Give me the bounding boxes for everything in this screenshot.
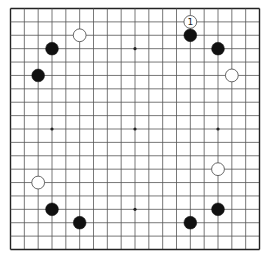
black-stone[interactable] — [212, 203, 225, 216]
go-board[interactable]: 1 — [0, 0, 262, 256]
black-stone[interactable] — [184, 216, 197, 229]
black-stone-circle — [212, 42, 225, 55]
white-stone[interactable] — [73, 29, 86, 42]
black-stone-circle — [212, 203, 225, 216]
black-stone[interactable] — [212, 42, 225, 55]
white-stone[interactable] — [32, 176, 45, 189]
white-stone[interactable] — [225, 69, 238, 82]
star-point — [133, 47, 136, 50]
black-stone-circle — [184, 29, 197, 42]
white-stone-circle — [32, 176, 45, 189]
black-stone[interactable] — [32, 69, 45, 82]
black-stone[interactable] — [184, 29, 197, 42]
black-stone-circle — [184, 216, 197, 229]
black-stone-circle — [46, 203, 59, 216]
black-stone[interactable] — [46, 203, 59, 216]
black-stone[interactable] — [73, 216, 86, 229]
white-stone[interactable] — [212, 163, 225, 176]
star-point — [50, 127, 53, 130]
white-stone[interactable]: 1 — [184, 15, 197, 28]
move-number-label: 1 — [187, 17, 193, 27]
white-stone-circle — [225, 69, 238, 82]
white-stone-circle — [73, 29, 86, 42]
black-stone-circle — [46, 42, 59, 55]
star-point — [133, 208, 136, 211]
black-stone-circle — [32, 69, 45, 82]
star-point — [133, 127, 136, 130]
go-board-grid[interactable]: 1 — [0, 0, 262, 256]
star-point — [216, 127, 219, 130]
black-stone[interactable] — [46, 42, 59, 55]
white-stone-circle — [212, 163, 225, 176]
black-stone-circle — [73, 216, 86, 229]
